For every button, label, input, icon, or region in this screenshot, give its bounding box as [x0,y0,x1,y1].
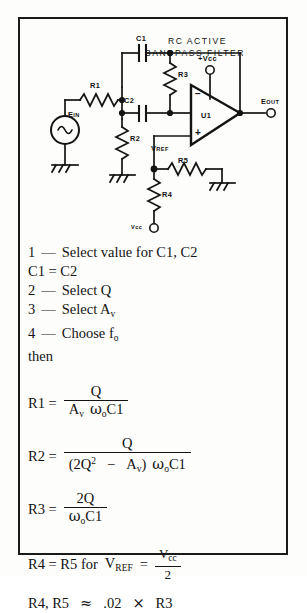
gnd3-h3 [224,183,228,190]
step-4-text: Choose f [62,325,114,341]
equation-r4-vref: R4 = R5 for VREF = Vcc 2 [28,546,280,582]
r2-zigzag [116,127,128,159]
eq-r2-den-open: (2Q [69,456,92,472]
figure-title-line1: RC ACTIVE [168,36,227,46]
label-c2: C2 [124,96,134,105]
eq-r4-v: V [105,555,115,571]
r4-zigzag [148,179,160,211]
eq-r2-den-a: A [126,456,136,472]
eq-r1-den-a-sub: v [79,409,84,419]
equation-r1: R1 = Q AvωoC1 [28,384,280,422]
step-then-text: then [28,348,53,364]
label-vref: VREF [151,144,169,153]
label-r1: R1 [90,81,100,90]
vcc-terminal [206,66,214,74]
step-1: 1—Select value for C1, C2 [28,243,280,262]
node-r3-c2 [167,110,173,116]
gnd2-h1 [110,175,114,182]
figure-title-line2: BANDPASS FILTER [145,48,245,58]
eq-r4-v-sub: REF [115,563,132,573]
gnd2-h2 [117,175,121,182]
gnd1-h3 [66,165,70,172]
eq-r45-times-sign: × [132,595,144,611]
eq-r45-ref: R3 [156,595,173,611]
label-r4: R4 [162,190,172,199]
equation-r3-denominator: ωoC1 [64,508,108,529]
r3-zigzag [164,63,176,95]
step-4-num: 4 [28,325,35,341]
label-ein-sub: IN [73,112,79,118]
label-vcc-positive: +Vcc [198,54,217,63]
eout-terminal [267,109,275,117]
step-1-text: Select value for C1, C2 [62,244,198,260]
label-vref-sub: REF [156,146,168,152]
equation-r3: R3 = 2Q ωoC1 [28,491,280,529]
equation-r2-fraction: Q (2Q2−Av)ωoC1 [64,436,191,477]
step-1-num: 1 [28,244,35,260]
opamp-noninverting-sign: + [195,127,201,138]
node-c2-r2 [119,110,125,116]
eq-r3-den-c: C1 [85,508,102,524]
equation-r2: R2 = Q (2Q2−Av)ωoC1 [28,436,280,477]
step-c1c2-text: C1 = C2 [28,263,77,279]
eq-r4-num-sub: cc [168,553,176,563]
equation-r4-r5-approx: R4, R5≈.02×R3 [28,594,280,613]
r1-zigzag [80,94,118,106]
eq-r2-den-close: ) [141,456,146,472]
label-r3: R3 [178,70,188,79]
equation-r3-fraction: 2Q ωoC1 [64,491,108,529]
equation-r2-denominator: (2Q2−Av)ωoC1 [64,453,191,477]
label-ein: EIN [68,110,80,119]
eq-r4-num-v: V [159,546,168,561]
eq-r2-den-omega: ω [152,456,164,472]
label-r5: R5 [178,156,188,165]
label-vcc-bottom-text: Vcc [131,224,142,230]
step-4: 4—Choose fo [28,324,280,348]
circuit-schematic: RC ACTIVE BANDPASS FILTER C1 C2 R1 R2 R3… [18,17,288,242]
step-1-dash: — [41,244,56,260]
step-3-subscript: v [110,309,115,319]
step-c1-equals-c2: C1 = C2 [28,262,280,281]
eq-r45-value: .02 [103,595,121,611]
node-output [237,110,243,116]
equation-r4-fraction: Vcc 2 [155,546,181,582]
equation-r2-numerator: Q [117,436,137,452]
gnd1-h2 [59,165,63,172]
vcc-bottom-terminal [150,224,158,232]
equation-r4-equals: = [140,556,155,573]
step-2-text: Select Q [62,282,112,298]
equation-r1-numerator: Q [86,384,106,400]
step-2: 2—Select Q [28,281,280,300]
step-4-subscript: o [114,332,119,342]
eq-r1-den-a: A [69,401,79,417]
eq-r3-den-omega: ω [69,508,81,524]
eq-r45-approx-sign: ≈ [80,595,92,611]
step-3: 3—Select Av [28,300,280,324]
eq-r1-den-omega: ω [90,401,102,417]
ein-sine-glyph [58,127,72,134]
equation-r4-lhs: R4 = R5 for [28,556,105,573]
step-2-dash: — [41,282,56,298]
label-eout: EOUT [261,97,279,106]
step-then: then [28,347,280,366]
step-2-num: 2 [28,282,35,298]
equation-r1-fraction: Q AvωoC1 [64,384,129,422]
gnd2-h3 [124,175,128,182]
opamp-inverting-sign: − [195,88,201,99]
design-procedure: 1—Select value for C1, C2 C1 = C2 2—Sele… [28,243,280,548]
eq-r2-den-c: C1 [169,456,186,472]
equation-r1-lhs: R1 = [28,395,64,412]
equation-r3-numerator: 2Q [72,491,100,507]
equation-r3-lhs: R3 = [28,501,64,518]
equation-r2-lhs: R2 = [28,448,64,465]
step-3-dash: — [41,301,56,317]
equation-r4-vref-symbol: VREF [105,555,140,573]
eq-r1-den-c: C1 [107,401,124,417]
step-4-dash: — [41,325,56,341]
label-r2: R2 [130,134,140,143]
equation-r1-denominator: AvωoC1 [64,401,129,422]
label-c1: C1 [136,34,146,43]
gnd3-h1 [210,183,214,190]
label-u1: U1 [201,111,211,120]
